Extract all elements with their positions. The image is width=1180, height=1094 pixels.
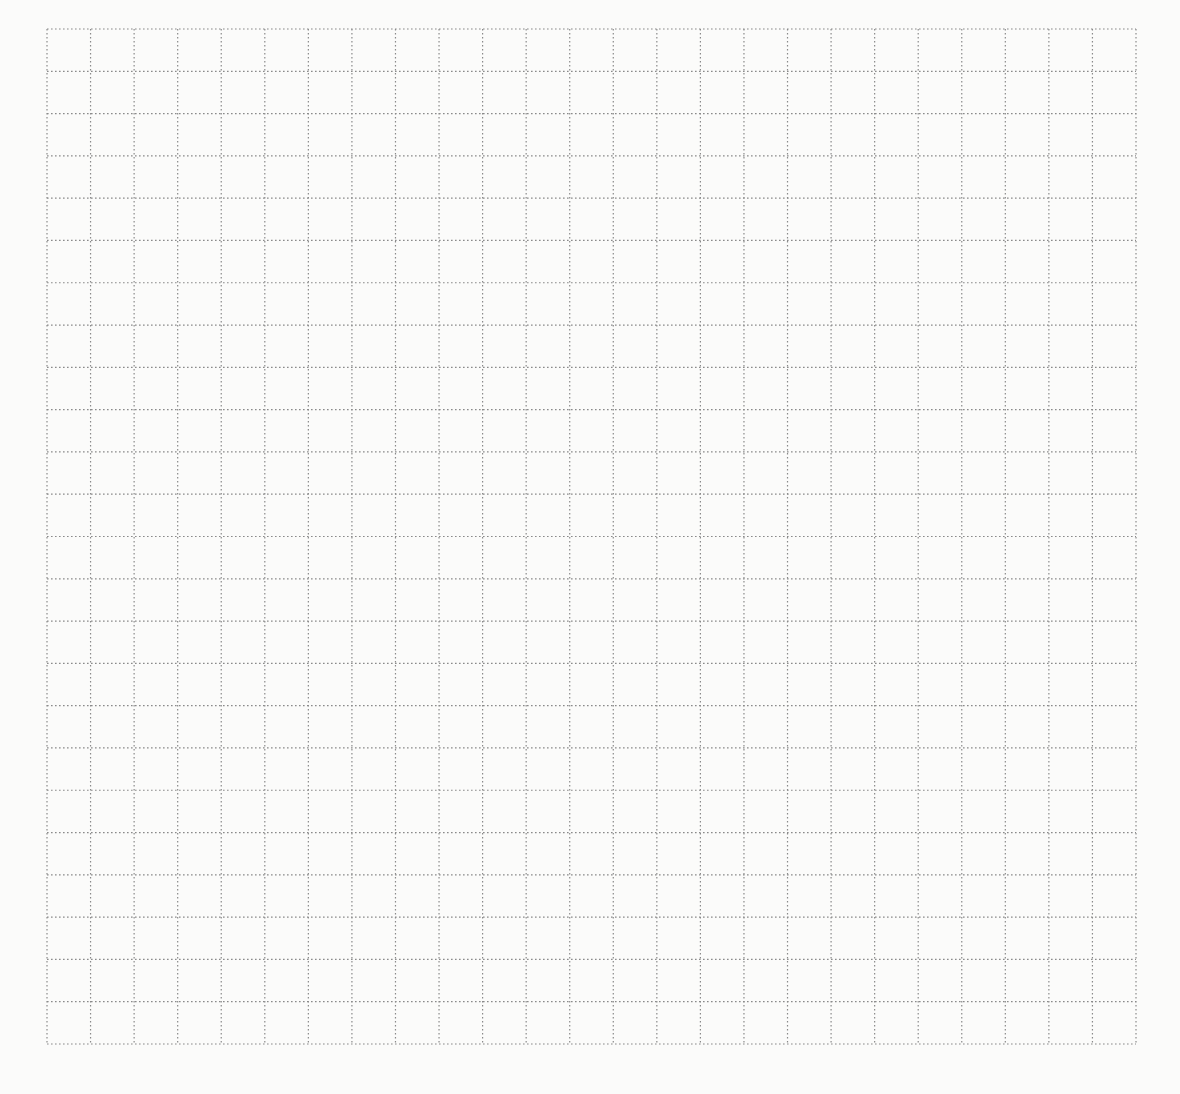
grid-paper	[46, 28, 1137, 1045]
grid-lines	[46, 28, 1137, 1045]
